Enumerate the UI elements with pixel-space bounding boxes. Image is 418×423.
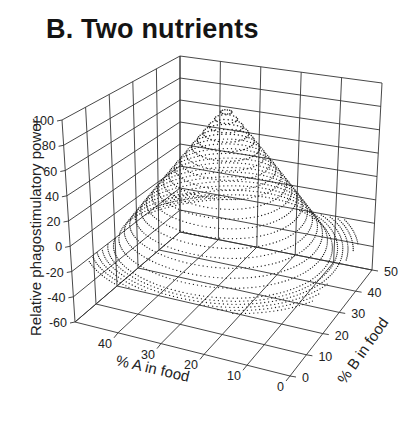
grid-line bbox=[180, 78, 381, 106]
z-tick-label: -20 bbox=[46, 266, 64, 280]
grid-line bbox=[356, 291, 362, 292]
y-tick-label: 50 bbox=[384, 265, 398, 279]
grid-line bbox=[180, 56, 382, 83]
grid-line bbox=[306, 355, 312, 356]
grid-line bbox=[204, 255, 295, 355]
grid-line bbox=[64, 78, 180, 145]
grid-line bbox=[86, 107, 96, 304]
y-axis-label: % B in food bbox=[334, 314, 392, 387]
grid-line bbox=[157, 344, 161, 349]
z-tick-label: -60 bbox=[49, 316, 67, 330]
grid-line bbox=[372, 83, 382, 270]
grid-line bbox=[67, 272, 72, 273]
grid-line bbox=[180, 210, 373, 247]
grid-line bbox=[200, 354, 204, 359]
z-tick-label: -40 bbox=[47, 291, 65, 305]
grid-line bbox=[68, 297, 73, 298]
grid-line bbox=[70, 322, 75, 323]
grid-line bbox=[372, 270, 378, 271]
grid-line bbox=[114, 333, 118, 338]
grid-line bbox=[243, 365, 247, 370]
x-tick-label: 10 bbox=[227, 369, 241, 383]
z-axis-label: Relative phagostimulatory power bbox=[27, 118, 44, 336]
x-tick-label: 0 bbox=[277, 380, 284, 394]
z-tick-label: 0 bbox=[55, 240, 62, 254]
grid-line bbox=[109, 94, 117, 286]
grid-line bbox=[118, 240, 218, 333]
grid-line bbox=[286, 376, 290, 381]
grid-line bbox=[57, 120, 62, 121]
grid-line bbox=[290, 376, 296, 377]
y-tick-label: 0 bbox=[302, 371, 309, 385]
grid-lines bbox=[57, 56, 382, 381]
grid-line bbox=[180, 144, 377, 177]
grid-line bbox=[323, 334, 329, 335]
z-tick-label: 40 bbox=[45, 190, 59, 204]
grid-line bbox=[117, 286, 323, 334]
grid-line bbox=[156, 69, 159, 250]
grid-line bbox=[96, 304, 306, 355]
grid-line bbox=[65, 246, 70, 247]
grid-line bbox=[60, 171, 65, 172]
y-tick-label: 10 bbox=[318, 350, 332, 364]
x-tick-label: 40 bbox=[98, 337, 112, 351]
grid-line bbox=[59, 145, 64, 146]
3d-scatter-plot: 100806040200-20-40-600102030400102030405… bbox=[0, 0, 418, 423]
grid-line bbox=[339, 312, 345, 313]
grid-line bbox=[64, 221, 69, 222]
grid-line bbox=[180, 188, 375, 223]
y-tick-label: 40 bbox=[368, 286, 382, 300]
grid-line bbox=[161, 247, 257, 343]
grid-line bbox=[133, 82, 138, 268]
z-tick-label: 60 bbox=[43, 165, 57, 179]
grid-line bbox=[62, 196, 67, 197]
y-tick-label: 20 bbox=[335, 329, 349, 343]
z-tick-label: 20 bbox=[47, 215, 61, 229]
grid-line bbox=[180, 100, 380, 130]
y-tick-label: 30 bbox=[351, 307, 365, 321]
